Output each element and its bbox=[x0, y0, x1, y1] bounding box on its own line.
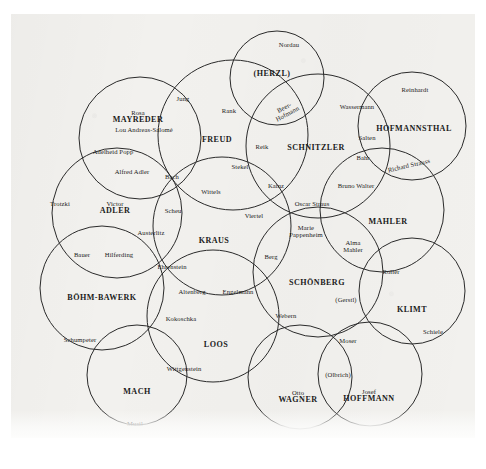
major-label-schnitzler: SCHNITZLER bbox=[287, 144, 345, 152]
minor-label-reik: Reik bbox=[256, 144, 269, 151]
minor-label-austerlitz: Austerlitz bbox=[137, 230, 164, 237]
minor-label-viertel: Viertel bbox=[245, 213, 264, 220]
major-label-bohm_bawerk: BÖHM-BAWERK bbox=[67, 294, 136, 302]
minor-label-reinhardt: Reinhardt bbox=[402, 87, 429, 94]
venn-circles-svg bbox=[0, 0, 486, 469]
paper-bottom-edge bbox=[11, 410, 475, 438]
minor-label-webern: Webern bbox=[276, 313, 297, 320]
given-name: Otto bbox=[278, 390, 317, 397]
minor-label-rosa_popp: Adelheid Popp bbox=[93, 149, 134, 156]
page-canvas: RosaMAYREDERFREUD(HERZL)SCHNITZLERHOFMAN… bbox=[0, 0, 486, 469]
label-line-2: Mahler bbox=[343, 247, 363, 254]
minor-label-kainz: Kainz bbox=[268, 183, 284, 190]
major-label-klimt: KLIMT bbox=[397, 306, 427, 314]
minor-label-moser: Moser bbox=[339, 338, 356, 345]
major-label-kraus: KRAUS bbox=[199, 237, 230, 245]
major-label-mayreder: RosaMAYREDER bbox=[113, 110, 164, 124]
minor-label-rank: Rank bbox=[222, 108, 236, 115]
minor-label-schumpeter: Schumpeter bbox=[64, 337, 97, 344]
minor-label-altenberg: Altenberg bbox=[178, 289, 205, 296]
given-name: Victor bbox=[100, 201, 131, 208]
circle-freud bbox=[158, 60, 308, 210]
minor-label-gerstl: (Gerstl) bbox=[335, 297, 356, 304]
major-label-herzl: (HERZL) bbox=[254, 70, 291, 78]
minor-label-salten: Salten bbox=[358, 135, 375, 142]
minor-label-bruno_walter: Bruno Walter bbox=[338, 183, 375, 190]
minor-label-jung: Jung bbox=[177, 96, 190, 103]
major-label-josef_hoffmann: JosefHOFFMANN bbox=[343, 389, 394, 403]
minor-label-bach: Bach bbox=[165, 174, 179, 181]
minor-label-olbrich: (Olbrich) bbox=[325, 372, 350, 379]
minor-label-wittels: Wittels bbox=[201, 189, 220, 196]
major-label-victor_adler: VictorADLER bbox=[100, 201, 131, 215]
minor-label-stekel: Stekel bbox=[231, 164, 248, 171]
minor-label-hilferding: Hilferding bbox=[105, 252, 133, 259]
minor-label-berg: Berg bbox=[264, 254, 277, 261]
minor-label-marie_pappenheim: MariePappenheim bbox=[289, 225, 323, 238]
minor-label-alma_mahler: AlmaMahler bbox=[343, 240, 363, 253]
minor-label-oscar_straus: Oscar Straus bbox=[295, 201, 330, 208]
major-label-mahler: MAHLER bbox=[368, 218, 407, 226]
circle-bohm_bawerk bbox=[40, 226, 164, 350]
minor-label-scheu: Scheu bbox=[165, 208, 182, 215]
major-label-loos: LOOS bbox=[204, 341, 228, 349]
minor-label-trotzki: Trotzki bbox=[50, 201, 70, 208]
minor-label-ehrenstein: Ehrenstein bbox=[157, 264, 186, 271]
minor-label-wassermann: Wassermann bbox=[340, 104, 375, 111]
minor-label-lou_andreas: Lou Andreas-Salomé bbox=[115, 127, 173, 134]
minor-label-wittgenstein: Wittgenstein bbox=[167, 366, 202, 373]
label-line-2: Pappenheim bbox=[289, 232, 323, 239]
minor-label-kokoschka: Kokoschka bbox=[166, 316, 197, 323]
minor-label-bauer: Bauer bbox=[74, 252, 90, 259]
major-label-hofmannsthal: HOFMANNSTHAL bbox=[376, 125, 452, 133]
circle-klimt bbox=[359, 238, 465, 344]
given-name: Josef bbox=[343, 389, 394, 396]
minor-label-engelmann: Engelmann bbox=[223, 289, 254, 296]
minor-label-alfred_adler: Alfred Adler bbox=[115, 169, 150, 176]
major-label-mach: MACH bbox=[123, 388, 150, 396]
minor-label-schiele: Schiele bbox=[423, 329, 443, 336]
minor-label-nordau: Nordau bbox=[279, 42, 299, 49]
major-label-freud: FREUD bbox=[202, 136, 232, 144]
major-label-otto_wagner: OttoWAGNER bbox=[278, 390, 317, 404]
venn-diagram bbox=[0, 0, 486, 469]
major-label-schonberg: SCHÖNBERG bbox=[289, 279, 345, 287]
minor-label-bahr: Bahr bbox=[356, 155, 369, 162]
given-name: Rosa bbox=[113, 110, 164, 117]
minor-label-roller: Roller bbox=[382, 269, 399, 276]
